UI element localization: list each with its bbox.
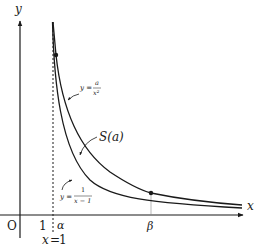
tick-beta-label: β <box>146 220 153 233</box>
origin-label: O <box>7 219 17 233</box>
pointer-arrow-icon <box>62 180 72 190</box>
x-axis-label: x <box>247 199 254 213</box>
curve-reciprocal-prefix: y = <box>59 193 72 201</box>
curve-inverse-square-label: y = a x² <box>68 79 101 100</box>
alpha-intersection-point <box>54 53 58 57</box>
pointer-arrow-icon <box>68 94 79 100</box>
asymptote-label-one: 1 <box>59 233 67 246</box>
curve-reciprocal <box>53 22 243 208</box>
region-label: S(a) <box>99 130 124 144</box>
curve-inverse-square-numerator: a <box>95 79 99 87</box>
y-axis-label: y <box>14 2 22 16</box>
region-label-group: S(a) <box>80 130 124 155</box>
curve-inverse-square <box>53 22 242 205</box>
curve-reciprocal-numerator: 1 <box>81 186 85 194</box>
curve-reciprocal-label: y = 1 x − 1 <box>59 180 92 205</box>
curve-inverse-square-prefix: y = <box>79 84 92 92</box>
asymptote-label-x: x <box>42 233 49 246</box>
beta-intersection-point <box>149 191 153 195</box>
tick-alpha-label: α <box>57 219 65 232</box>
region-pointer-icon <box>80 137 97 155</box>
curve-reciprocal-denominator: x − 1 <box>74 197 91 205</box>
curve-inverse-square-denominator: x² <box>93 89 100 97</box>
asymptote-label: x = 1 <box>42 233 67 246</box>
math-diagram: y x O 1 α β x = 1 y = a x² S(a) y = 1 x … <box>0 0 255 246</box>
tick-one-label: 1 <box>39 219 47 233</box>
